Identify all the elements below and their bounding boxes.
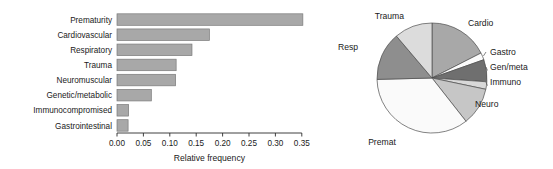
bar-rect [117,74,176,86]
bar-x-axis [117,133,302,137]
bar-x-tick-label: 0.05 [135,139,151,148]
bar-category-label: Respiratory [70,46,113,55]
bar-x-tick-label: 0.00 [109,139,125,148]
pie-slice-label: Gastro [490,47,516,57]
bar-category-label: Trauma [84,61,112,70]
bar-category-label: Gastrointestinal [55,122,112,131]
bar-series [117,14,303,131]
pie-slice-label: Cardio [468,18,494,28]
pie-chart-panel: CardioGastroGen/metaImmunoNeuroPrematRes… [320,0,553,169]
bar-rect [117,89,151,101]
pie-slice-label: Immuno [490,77,521,87]
bar-x-tick-label: 0.30 [267,139,283,148]
pie-slice-label: Trauma [375,11,405,21]
bar-x-tick-label: 0.10 [162,139,178,148]
pie-slice-label: Gen/meta [490,62,528,72]
bar-rect [117,14,303,26]
bar-x-tick-label: 0.35 [294,139,310,148]
bar-chart-panel: PrematurityCardiovascularRespiratoryTrau… [0,0,320,169]
bar-x-tick-labels: 0.000.050.100.150.200.250.300.35 [109,139,310,148]
bar-chart-svg: PrematurityCardiovascularRespiratoryTrau… [0,0,320,169]
pie-slice-label: Premat [368,137,396,147]
pie-chart-svg: CardioGastroGen/metaImmunoNeuroPrematRes… [320,0,553,169]
bar-category-label: Immunocompromised [33,106,112,115]
figure-container: PrematurityCardiovascularRespiratoryTrau… [0,0,553,169]
bar-rect [117,105,129,117]
bar-rect [117,29,209,41]
pie-slice-label: Neuro [475,99,499,109]
bar-category-labels: PrematurityCardiovascularRespiratoryTrau… [33,16,113,131]
bar-category-label: Genetic/metabolic [46,91,112,100]
pie-leader-line [483,52,486,56]
bar-x-tick-label: 0.20 [215,139,231,148]
bar-x-tick-label: 0.15 [188,139,204,148]
bar-x-tick-label: 0.25 [241,139,257,148]
bar-category-label: Cardiovascular [57,31,112,40]
bar-rect [117,44,192,56]
x-axis-title: Relative frequency [174,153,246,163]
pie-slice-label: Resp [338,42,358,52]
bar-category-label: Prematurity [70,16,113,25]
bar-category-label: Neuromuscular [56,76,112,85]
pie-slices [377,23,487,133]
bar-rect [117,59,176,71]
bar-rect [117,120,128,132]
